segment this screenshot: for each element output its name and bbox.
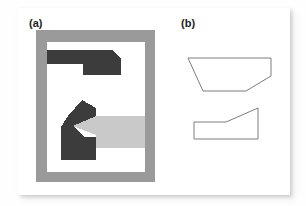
outline-upper-trapezoid <box>188 58 271 91</box>
outline-lower-notched <box>194 108 258 139</box>
panel-b-outlines <box>186 42 281 147</box>
figure-root: (a) (b) <box>0 0 306 206</box>
panel-a-image <box>36 30 155 182</box>
panel-label-b: (b) <box>181 17 195 29</box>
panel-label-a: (a) <box>29 17 42 29</box>
figure-card: (a) (b) <box>18 8 290 195</box>
